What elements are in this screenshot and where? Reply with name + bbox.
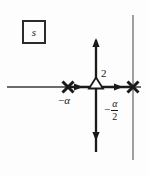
arrowhead-right-icon-2 (114, 84, 123, 91)
plane-label-text: s (32, 26, 36, 38)
fraction-leading-minus: − (104, 104, 110, 115)
arrowhead-down-icon (92, 132, 99, 141)
arrowhead-right-icon-1 (74, 84, 83, 91)
fraction-denominator: 2 (111, 112, 118, 122)
fraction: α 2 (111, 99, 118, 122)
arrowhead-up-icon (92, 38, 99, 47)
label-neg-alpha: −α (58, 95, 70, 106)
figure-canvas: s −α 2 − α 2 (0, 0, 148, 176)
fraction-numerator: α (111, 99, 118, 109)
zero-marker-open-triangle-icon (89, 78, 103, 89)
label-neg-alpha-over-two: − α 2 (104, 99, 118, 122)
label-zero-multiplicity: 2 (101, 68, 107, 79)
label-neg-alpha-symbol: α (64, 94, 70, 106)
plane-label-box: s (22, 20, 46, 44)
